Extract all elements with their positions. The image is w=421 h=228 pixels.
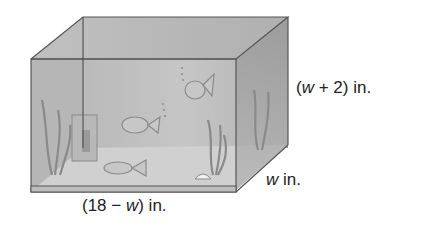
- castle-ornament-icon: [72, 115, 97, 161]
- length-label: (18 − w) in.: [82, 196, 167, 216]
- height-label: (w + 2) in.: [296, 78, 371, 98]
- depth-label: w in.: [266, 170, 301, 190]
- tank-base: [31, 186, 236, 192]
- aquarium-illustration: [0, 0, 421, 228]
